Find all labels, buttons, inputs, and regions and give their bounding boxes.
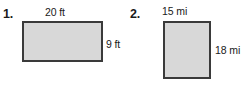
- dimension-label-width-2: 15 mi: [162, 6, 187, 17]
- figure-rectangle-2: [163, 21, 211, 79]
- problem-item-2: 2. 15 mi 18 mi: [126, 0, 252, 98]
- figure-rectangle-1: [22, 21, 103, 62]
- problem-number-1: 1.: [3, 8, 13, 21]
- problem-number-2: 2.: [130, 8, 140, 21]
- dimension-label-width-1: 20 ft: [45, 7, 65, 18]
- problem-item-1: 1. 20 ft 9 ft: [0, 0, 126, 98]
- worksheet: 1. 20 ft 9 ft 2. 15 mi 18 mi: [0, 0, 252, 98]
- dimension-label-height-1: 9 ft: [106, 39, 120, 50]
- dimension-label-height-2: 18 mi: [215, 45, 240, 56]
